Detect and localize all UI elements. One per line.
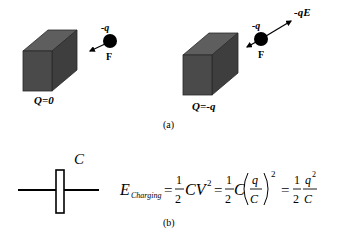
charging-energy-equation: E Charging = 1 2 CV 2 = 1 2 C q C 2 = 1 … (119, 169, 317, 206)
frac3-numerator: 1 (294, 173, 300, 187)
frac2-denominator: 2 (225, 192, 231, 206)
block-charge-label: Q=-q (192, 100, 216, 112)
term2: C (234, 181, 245, 198)
paren-exponent: 2 (271, 169, 276, 179)
block-front-face (183, 55, 212, 95)
term1-exponent: 2 (207, 178, 212, 188)
force-label: F (106, 51, 112, 62)
eq-equals-3: = (281, 182, 289, 198)
frac1-numerator: 1 (176, 173, 182, 187)
charged-block (183, 33, 238, 95)
charge-label: -q (101, 22, 109, 33)
capacitor-symbol (18, 170, 99, 213)
block-front-face (23, 51, 52, 91)
charge-left (90, 34, 117, 51)
frac3-denominator: 2 (293, 192, 299, 206)
figure-canvas: -q F Q=0 -q F -qE Q=-q (a) C E Charging … (0, 0, 341, 237)
inner-denominator: C (250, 192, 259, 206)
field-force-arrow (266, 21, 291, 36)
right-paren (264, 173, 268, 205)
eq-equals-1: = (164, 182, 172, 198)
frac2-numerator: 1 (226, 173, 232, 187)
frac4-denominator: C (304, 192, 313, 206)
panel-b-caption: (b) (163, 217, 175, 229)
term1: CV (185, 181, 208, 198)
eq-equals-2: = (214, 182, 222, 198)
frac4-numerator-exponent: 2 (312, 170, 316, 179)
image-force-arrow (247, 42, 256, 47)
charge-dot (103, 34, 117, 48)
panel-a-caption: (a) (163, 119, 174, 131)
capacitor-plates (56, 170, 64, 213)
frac1-denominator: 2 (175, 192, 181, 206)
field-force-label: -qE (294, 6, 311, 18)
charge-label: -q (252, 20, 260, 31)
inner-numerator: q (252, 173, 258, 187)
charge-dot (254, 32, 268, 46)
force-label: F (258, 49, 264, 60)
block-charge-label: Q=0 (34, 94, 54, 106)
neutral-block (23, 30, 77, 91)
capacitor-label: C (74, 151, 85, 167)
eq-lhs-symbol: E (119, 181, 130, 198)
frac4-numerator: q (305, 173, 311, 187)
force-arrow (90, 44, 105, 51)
eq-lhs-subscript: Charging (131, 191, 161, 200)
